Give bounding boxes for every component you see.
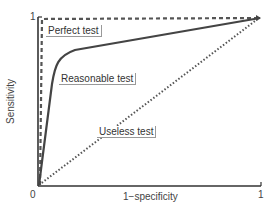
reasonable-test-label: Reasonable test — [59, 73, 136, 85]
perfect-test-label: Perfect test — [46, 25, 102, 37]
y-tick-label-top: 1 — [30, 11, 36, 22]
useless-test-line — [39, 18, 259, 185]
x-axis-label: 1−specificity — [123, 191, 178, 202]
useless-test-label: Useless test — [97, 126, 156, 138]
roc-plot — [0, 0, 276, 207]
arrow-head — [256, 15, 261, 21]
y-axis-label: Sensitivity — [5, 79, 16, 124]
origin-tick-label: 0 — [30, 189, 36, 200]
x-tick-label-right: 1 — [258, 189, 264, 200]
